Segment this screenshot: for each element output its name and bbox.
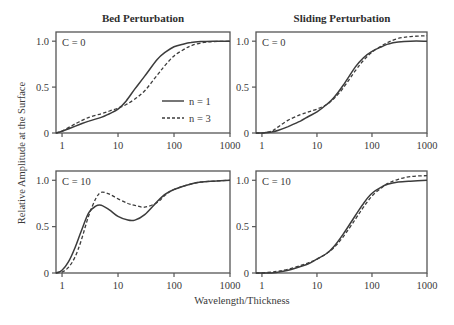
panel-bed-c10: 00.51.01101001000C = 10 — [36, 171, 241, 291]
legend-label-n1: n = 1 — [189, 96, 211, 107]
panel-annotation: C = 10 — [62, 176, 91, 187]
panels: 00.51.01101001000C = 000.51.01101001000C… — [36, 32, 438, 291]
series-n3-dashed-line — [256, 36, 427, 133]
x-tick-label: 1000 — [220, 140, 241, 151]
x-tick-label: 100 — [364, 140, 380, 151]
y-tick-label: 1.0 — [36, 175, 49, 186]
x-tick-label: 1000 — [417, 140, 438, 151]
x-tick-label: 1 — [59, 280, 64, 291]
y-tick-label: 0 — [244, 268, 249, 279]
series-n1-solid-line — [256, 180, 427, 273]
x-tick-label: 100 — [364, 280, 380, 291]
figure: Bed Perturbation Sliding Perturbation Re… — [0, 0, 454, 325]
panel-annotation: C = 0 — [62, 37, 85, 48]
y-tick-label: 0 — [44, 128, 49, 139]
y-tick-label: 0 — [244, 128, 249, 139]
x-tick-label: 1000 — [220, 280, 241, 291]
y-tick-label: 0.5 — [236, 221, 249, 232]
y-tick-label: 0.5 — [36, 221, 49, 232]
panel-annotation: C = 0 — [262, 37, 285, 48]
y-tick-label: 1.0 — [236, 175, 249, 186]
x-axis-label: Wavelength/Thickness — [194, 295, 289, 306]
column-title-bed: Bed Perturbation — [102, 12, 184, 24]
x-tick-label: 1000 — [417, 280, 438, 291]
y-tick-label: 0.5 — [236, 82, 249, 93]
y-tick-label: 1.0 — [36, 36, 49, 47]
y-tick-label: 0.5 — [36, 82, 49, 93]
legend: n = 1 n = 3 — [162, 96, 211, 124]
panel-sliding-c0: 00.51.01101001000C = 0 — [236, 32, 438, 151]
series-n1-solid-line — [56, 180, 230, 273]
y-tick-label: 1.0 — [236, 36, 249, 47]
series-n3-dashed-line — [256, 176, 427, 273]
y-axis-label: Relative Amplitude at the Surface — [16, 82, 27, 225]
x-tick-label: 10 — [113, 280, 124, 291]
x-tick-label: 1 — [259, 280, 264, 291]
x-tick-label: 10 — [312, 140, 323, 151]
x-tick-label: 1 — [59, 140, 64, 151]
panel-sliding-c10: 00.51.01101001000C = 10 — [236, 171, 438, 291]
series-n1-solid-line — [256, 41, 427, 133]
panel-annotation: C = 10 — [262, 176, 291, 187]
x-tick-label: 100 — [166, 140, 182, 151]
panel-bed-c0: 00.51.01101001000C = 0 — [36, 32, 241, 151]
column-title-sliding: Sliding Perturbation — [294, 12, 391, 24]
series-n3-dashed-line — [56, 180, 230, 273]
legend-label-n3: n = 3 — [189, 113, 211, 124]
x-tick-label: 10 — [312, 280, 323, 291]
y-tick-label: 0 — [44, 268, 49, 279]
x-tick-label: 100 — [166, 280, 182, 291]
x-tick-label: 1 — [259, 140, 264, 151]
x-tick-label: 10 — [113, 140, 124, 151]
